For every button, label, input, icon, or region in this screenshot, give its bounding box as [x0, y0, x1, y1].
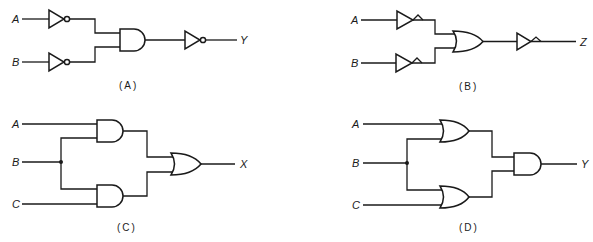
caption-b: (B): [459, 81, 478, 92]
wire: [469, 171, 514, 197]
input-label-a: A: [350, 14, 358, 26]
and-gate-icon: [97, 185, 123, 207]
logic-circuits-figure: A B Y (A) A B: [0, 0, 593, 242]
output-label-y: Y: [581, 158, 589, 170]
and-gate-icon: [120, 29, 145, 51]
wire: [61, 138, 97, 189]
input-label-b: B: [12, 56, 19, 68]
input-label-b: B: [351, 57, 358, 69]
and-gate-icon: [514, 153, 541, 175]
input-label-b: B: [352, 157, 359, 169]
input-label-c: C: [352, 199, 360, 211]
wire: [123, 172, 173, 196]
circuit-d: A B C Y (D): [351, 118, 589, 233]
input-label-c: C: [12, 198, 20, 210]
or-gate-icon: [440, 120, 469, 142]
or-gate-icon: [440, 186, 469, 208]
input-label-a: A: [351, 118, 359, 130]
or-gate-icon: [453, 31, 483, 52]
circuit-a: A B Y (A): [11, 10, 248, 91]
wire: [70, 47, 120, 62]
caption-c: (C): [117, 222, 137, 233]
input-label-a: A: [11, 118, 19, 130]
wire: [123, 131, 173, 157]
caption-d: (D): [459, 222, 479, 233]
junction-dot: [405, 161, 409, 165]
inverter-gate-icon: [185, 31, 206, 49]
wire: [469, 131, 514, 157]
junction-dot: [59, 160, 63, 164]
input-label-b: B: [12, 156, 19, 168]
output-label-x: X: [239, 158, 248, 170]
output-label-z: Z: [579, 36, 588, 48]
wire: [413, 20, 455, 34]
input-label-a: A: [11, 13, 19, 25]
wire: [412, 48, 455, 63]
circuit-b: A B Z (B): [350, 11, 588, 92]
caption-a: (A): [119, 80, 138, 91]
or-gate-icon: [171, 153, 201, 175]
output-label-y: Y: [240, 34, 248, 46]
wire: [407, 139, 443, 190]
and-gate-icon: [97, 120, 123, 142]
wire: [70, 19, 120, 33]
inverter-gate-icon: [49, 10, 70, 28]
inverter-gate-icon: [49, 53, 70, 71]
circuit-c: A B C X (C): [11, 118, 248, 233]
